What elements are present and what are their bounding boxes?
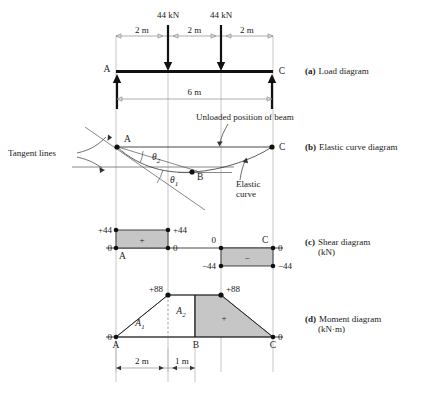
caption-b: (b)Elastic curve diagram xyxy=(305,142,397,152)
reaction-left xyxy=(113,74,121,109)
span-dim-label: 6 m xyxy=(188,87,202,97)
shear-value-4m-zero: 0 xyxy=(212,235,217,245)
moment-positive-sign: + xyxy=(221,313,226,323)
shear-value-2m-zero: 0 xyxy=(173,243,178,253)
elastic-curve-label-line2: curve xyxy=(236,189,256,199)
point-load-2 xyxy=(217,25,225,71)
shear-dot-4m-zero xyxy=(219,246,224,251)
caption-a: (a)Load diagram xyxy=(305,66,369,76)
theta2-arc xyxy=(140,151,143,163)
support-label-a: A xyxy=(104,64,111,74)
shear-value-left-zero: 0 xyxy=(108,243,113,253)
bottom-dim-label-2: 1 m xyxy=(175,356,189,366)
shear-dot-a-zero xyxy=(114,246,119,251)
node-a-dot xyxy=(114,144,119,149)
figure-page: 2 m 2 m 2 m 44 kN 44 kN xyxy=(0,0,424,401)
shear-dot-2m-zero xyxy=(166,246,171,251)
bottom-dim-label-1: 2 m xyxy=(135,356,149,366)
shear-dot-c-bot xyxy=(271,264,276,269)
moment-dot-a xyxy=(114,335,119,340)
load-diagram-panel: 2 m 2 m 2 m 44 kN 44 kN xyxy=(104,10,369,109)
elastic-curve-leader xyxy=(240,158,248,181)
shear-positive-sign: + xyxy=(139,235,144,245)
shear-value-left-top: +44 xyxy=(98,225,113,235)
support-label-c: C xyxy=(279,66,285,76)
point-load-1-label: 44 kN xyxy=(157,10,180,20)
shear-value-c-bot: −44 xyxy=(278,261,293,271)
theta1-label: θ1 xyxy=(170,175,178,188)
unloaded-position-label: Unloaded position of beam xyxy=(196,112,294,122)
shear-dot-4m-bot xyxy=(219,264,224,269)
reaction-right xyxy=(268,74,276,109)
shear-station-a: A xyxy=(119,251,126,261)
point-load-2-label: 44 kN xyxy=(210,10,233,20)
elastic-curve-panel: θ2 θ1 A B C Tangent lines Unloaded posit… xyxy=(8,112,397,210)
moment-value-c: 0 xyxy=(278,332,283,342)
moment-value-2m: +88 xyxy=(149,284,164,294)
caption-d-units: (kN·m) xyxy=(318,324,345,334)
shear-dot-c-zero xyxy=(271,246,276,251)
elastic-label-a: A xyxy=(124,134,131,144)
moment-value-4m: +88 xyxy=(226,284,241,294)
moment-station-b: B xyxy=(193,340,199,350)
beam-diagram-figure: 2 m 2 m 2 m 44 kN 44 kN xyxy=(0,0,424,401)
elastic-label-b: B xyxy=(197,172,203,182)
dim-label-seg-3: 2 m xyxy=(240,25,254,35)
dim-label-seg-1: 2 m xyxy=(135,25,149,35)
moment-station-c: C xyxy=(270,340,276,350)
elastic-label-c: C xyxy=(279,142,285,152)
point-load-1 xyxy=(164,25,172,71)
span-dimension-line xyxy=(117,97,272,101)
moment-shaded-region xyxy=(195,295,273,337)
shear-diagram-panel: + − +44 0 +44 0 0 −44 0 −44 A C (c)Shear… xyxy=(98,225,370,271)
moment-dot-2m xyxy=(165,292,170,297)
shear-station-c: C xyxy=(262,235,268,245)
elastic-curve-path xyxy=(117,147,272,172)
caption-d: (d)Moment diagram xyxy=(305,314,381,324)
shear-value-c-zero: 0 xyxy=(278,243,283,253)
caption-c-units: (kN) xyxy=(318,247,335,257)
node-c-dot xyxy=(269,144,274,149)
shear-negative-sign: − xyxy=(244,253,249,263)
theta2-label: θ2 xyxy=(152,152,161,165)
shear-value-2m-top: +44 xyxy=(173,225,188,235)
moment-dot-4m xyxy=(218,292,223,297)
moment-diagram-panel: 0 +88 +88 0 A1 A2 + A B C 2 m 1 m xyxy=(106,284,381,382)
tangent-lines-label: Tangent lines xyxy=(8,148,57,158)
theta1-arc xyxy=(157,170,163,183)
unloaded-position-leader xyxy=(217,124,228,147)
node-b-dot xyxy=(189,169,194,174)
elastic-curve-label-line1: Elastic xyxy=(236,179,261,189)
caption-c: (c)Shear diagram xyxy=(305,237,370,247)
shear-dot-2m-top xyxy=(166,228,171,233)
shear-value-4m-bot: −44 xyxy=(202,261,217,271)
shear-dot-a-top xyxy=(114,228,119,233)
dim-label-seg-2: 2 m xyxy=(188,25,202,35)
moment-dot-c xyxy=(271,335,276,340)
